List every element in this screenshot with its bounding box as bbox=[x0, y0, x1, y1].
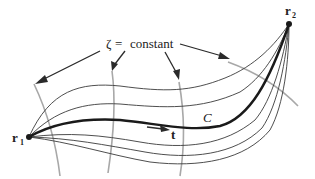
transverse-surface-1 bbox=[34, 84, 60, 176]
surface-label: ζ = constant bbox=[106, 36, 174, 51]
arrow-2-shaft bbox=[115, 51, 125, 64]
point-r2-subscript: 2 bbox=[292, 11, 296, 20]
arrow-3-head-icon bbox=[173, 69, 180, 80]
point-r2: r 2 bbox=[285, 3, 296, 27]
constant-word: constant bbox=[130, 36, 174, 51]
arrow-4-shaft bbox=[180, 44, 222, 56]
point-r1-dot bbox=[26, 134, 32, 140]
arrow-1-head-icon bbox=[35, 75, 48, 84]
tangent-label: t bbox=[171, 127, 176, 142]
arrow-4-head-icon bbox=[218, 52, 230, 59]
transverse-surfaces bbox=[34, 62, 298, 176]
point-r2-dot bbox=[286, 21, 292, 27]
point-r2-letter: r bbox=[285, 3, 291, 18]
arrow-3-shaft bbox=[165, 52, 176, 72]
tangent-vector: t bbox=[147, 125, 176, 142]
zeta-symbol: ζ bbox=[106, 36, 112, 51]
point-r1-letter: r bbox=[12, 130, 18, 145]
arrow-1-shaft bbox=[42, 51, 100, 80]
transverse-surface-2 bbox=[108, 71, 114, 173]
curve-family-diagram: t C r 1 r 2 ζ = constant bbox=[0, 0, 315, 179]
equals-sign: = bbox=[115, 36, 122, 51]
curve-label-c: C bbox=[203, 110, 212, 125]
transverse-surface-3 bbox=[179, 82, 183, 176]
point-r1: r 1 bbox=[12, 130, 32, 147]
point-r1-subscript: 1 bbox=[20, 138, 24, 147]
